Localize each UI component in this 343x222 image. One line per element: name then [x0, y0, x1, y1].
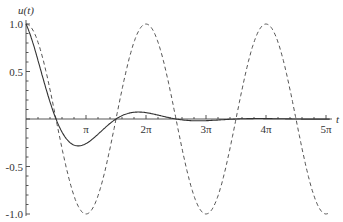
x-tick-label: 2π: [140, 123, 152, 135]
x-tick-label: 5π: [320, 123, 332, 135]
x-tick-label: 3π: [200, 123, 212, 135]
solid-series-line: [26, 24, 330, 146]
y-axis-label: u(t): [18, 4, 34, 17]
y-tick-label: -1.0: [6, 208, 24, 220]
y-tick-label: -0.5: [6, 161, 24, 173]
y-tick-label: 1.0: [9, 18, 23, 30]
x-tick-label: 4π: [260, 123, 272, 135]
x-tick-label: π: [83, 123, 89, 135]
x-axis-label: t: [336, 113, 340, 125]
chart-plot: 1.00.5-0.5-1.0π2π3π4π5π u(t) t: [0, 0, 343, 222]
axes: [26, 20, 332, 216]
y-tick-label: 0.5: [9, 66, 23, 78]
